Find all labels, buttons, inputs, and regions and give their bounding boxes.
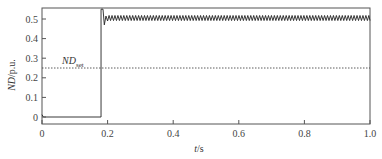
x-tick-label: 0.4 [167, 128, 180, 139]
x-tick-label: 0.8 [298, 128, 311, 139]
y-tick-label: 0.4 [26, 33, 39, 44]
y-tick-label: 0.2 [26, 72, 39, 83]
plot-area [42, 8, 370, 124]
x-tick-label: 0.6 [233, 128, 246, 139]
x-axis-ticks: 00.20.40.60.81.0 [40, 120, 377, 139]
y-axis-label: ND/p.u. [6, 59, 17, 92]
y-tick-label: 0.5 [26, 14, 39, 25]
nd-set-annotation: NDset [61, 55, 84, 69]
y-tick-label: 0 [33, 112, 38, 123]
y-tick-label: 0.1 [26, 92, 39, 103]
nd-series-line [42, 9, 370, 117]
plot-frame [42, 8, 370, 124]
chart: 00.20.40.60.81.0 00.10.20.30.40.5 NDset … [0, 0, 382, 159]
x-axis-label: t/s [194, 143, 204, 154]
x-tick-label: 0.2 [101, 128, 114, 139]
x-tick-label: 1.0 [364, 128, 377, 139]
x-tick-label: 0 [40, 128, 45, 139]
y-tick-label: 0.3 [26, 53, 39, 64]
